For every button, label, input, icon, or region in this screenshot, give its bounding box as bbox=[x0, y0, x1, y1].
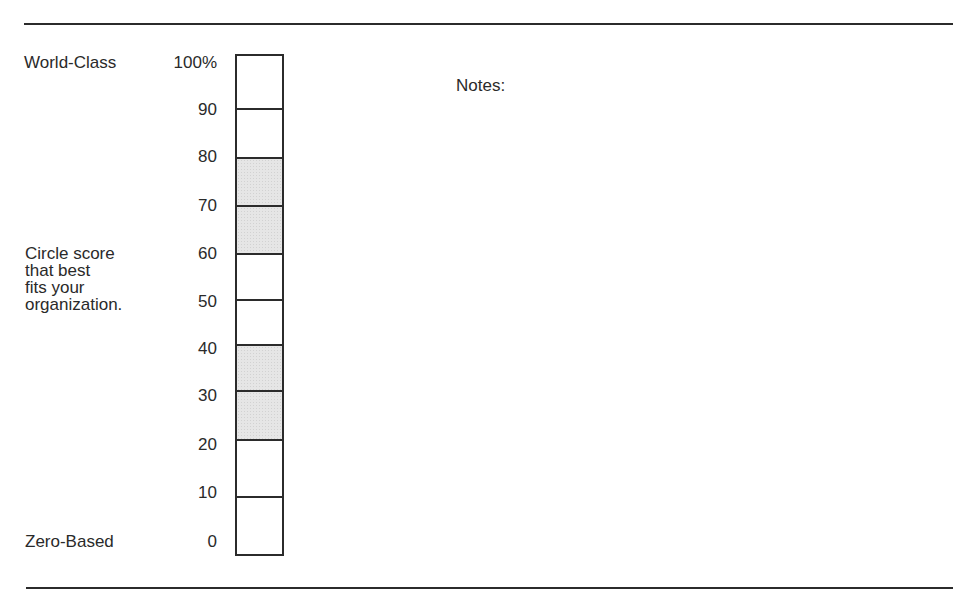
score-segment-60-50[interactable] bbox=[237, 253, 282, 300]
instruction-text: Circle score that best fits your organiz… bbox=[25, 245, 155, 313]
score-segment-30-20[interactable] bbox=[237, 390, 282, 440]
score-segment-50-40[interactable] bbox=[237, 299, 282, 345]
score-segment-100-90[interactable] bbox=[237, 54, 282, 109]
scale-label-20: 20 bbox=[198, 436, 217, 454]
scale-label-90: 90 bbox=[198, 101, 217, 119]
score-segment-20-10[interactable] bbox=[237, 439, 282, 497]
scale-label-100: 100% bbox=[174, 54, 217, 72]
score-segment-90-80[interactable] bbox=[237, 108, 282, 158]
zero-based-label: Zero-Based bbox=[25, 533, 114, 551]
scale-label-40: 40 bbox=[198, 340, 217, 358]
world-class-label: World-Class bbox=[24, 54, 116, 72]
score-segment-10-0[interactable] bbox=[237, 496, 282, 556]
instruction-line: Circle score bbox=[25, 245, 155, 262]
score-segment-40-30[interactable] bbox=[237, 344, 282, 391]
scale-label-0: 0 bbox=[208, 533, 217, 551]
score-segment-80-70[interactable] bbox=[237, 157, 282, 206]
notes-label: Notes: bbox=[456, 77, 505, 95]
score-scale-labels: 100% 90 80 70 60 50 40 30 20 10 0 bbox=[150, 0, 217, 602]
scale-label-10: 10 bbox=[198, 484, 217, 502]
score-segment-70-60[interactable] bbox=[237, 205, 282, 254]
scale-label-30: 30 bbox=[198, 387, 217, 405]
score-bar bbox=[235, 54, 284, 556]
scale-label-70: 70 bbox=[198, 197, 217, 215]
instruction-line: that best bbox=[25, 262, 155, 279]
scale-label-80: 80 bbox=[198, 148, 217, 166]
scale-label-50: 50 bbox=[198, 293, 217, 311]
instruction-line: organization. bbox=[25, 296, 155, 313]
scale-label-60: 60 bbox=[198, 245, 217, 263]
instruction-line: fits your bbox=[25, 279, 155, 296]
